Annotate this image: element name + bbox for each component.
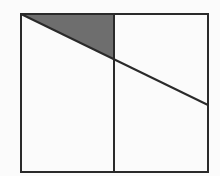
geometry-diagram: [0, 0, 220, 176]
